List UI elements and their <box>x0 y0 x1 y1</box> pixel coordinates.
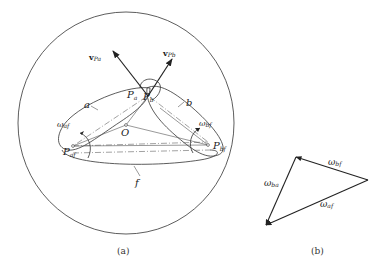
figure-b: ωbf ωba ωaf (b) <box>264 157 368 256</box>
omega-bf-arc <box>190 128 200 153</box>
label-omega-bf: ωbf <box>199 119 213 129</box>
figure-a: vPa vPb Pa Pb a b O ωaf ωbf Paf Pbf f (a… <box>18 12 234 256</box>
label-v-pa: vPa <box>88 52 101 62</box>
caption-a: (a) <box>117 246 129 256</box>
label-body-b: b <box>186 97 192 108</box>
label-v-pb: vPb <box>162 48 176 58</box>
body-f-outline <box>62 150 217 164</box>
label-omega-af: ωaf <box>57 120 71 130</box>
omega-ba-vector <box>266 157 296 225</box>
label-b-omega-ba: ωba <box>264 178 279 188</box>
label-p-af: Paf <box>62 146 77 159</box>
caption-b: (b) <box>311 246 324 256</box>
paf-point <box>72 145 75 148</box>
pbf-point <box>207 144 210 147</box>
label-p-b: Pb <box>142 91 154 103</box>
label-origin: O <box>121 127 129 138</box>
omega-af-vector <box>266 180 368 225</box>
body-b-outline <box>147 86 223 156</box>
label-b-omega-af: ωaf <box>320 199 335 210</box>
origin-point <box>125 124 128 127</box>
label-p-a: Pa <box>126 89 138 101</box>
label-b-omega-bf: ωbf <box>328 157 343 168</box>
diagram-canvas: vPa vPb Pa Pb a b O ωaf ωbf Paf Pbf f (a… <box>0 0 384 273</box>
label-body-a: a <box>84 99 90 110</box>
label-body-f: f <box>134 177 141 188</box>
label-p-bf: Pbf <box>212 140 228 153</box>
